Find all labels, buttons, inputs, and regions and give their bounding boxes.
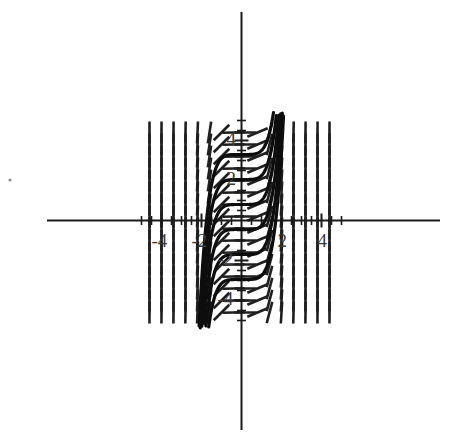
slope-field-plot: -4-224-4-224 [0,0,459,443]
scan-speck-artifact [8,178,11,181]
x-tick-label-4: 4 [318,230,328,251]
y-tick-label--2: -2 [218,248,234,269]
x-tick-label-2: 2 [278,230,288,251]
y-tick-label-2: 2 [227,168,237,189]
slope-segment [197,122,198,144]
x-tick-label--2: -2 [192,230,208,251]
y-tick-label--4: -4 [218,288,234,309]
x-tick-label--4: -4 [152,230,168,251]
y-tick-label-4: 4 [227,128,237,149]
figure-canvas: -4-224-4-224 [0,0,459,443]
